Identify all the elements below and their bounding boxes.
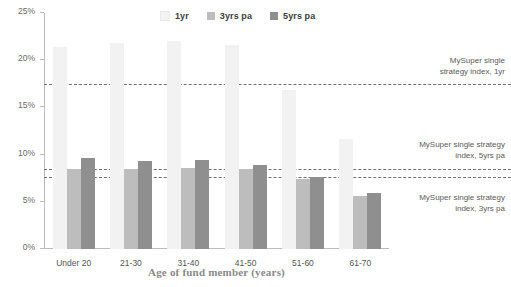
bar-chart: 1yr3yrs pa5yrs pa 0%5%10%15%20%25% Under… — [0, 0, 511, 287]
x-axis-title: Age of fund member (years) — [44, 266, 389, 278]
y-tick-mark — [40, 248, 44, 249]
y-tick-2: 10% — [0, 154, 44, 155]
y-tick-label: 20% — [18, 53, 35, 63]
bars — [217, 13, 274, 249]
bar-5yrs-pa-61-70[interactable] — [367, 193, 381, 249]
y-tick-label: 25% — [18, 6, 35, 16]
y-tick-3: 15% — [0, 106, 44, 107]
bar-group-3: 41-50 — [217, 13, 274, 249]
bar-3yrs-pa-31-40[interactable] — [181, 168, 195, 249]
bar-5yrs-pa-31-40[interactable] — [195, 160, 209, 249]
bar-3yrs-pa-41-50[interactable] — [239, 169, 253, 249]
bars — [332, 13, 389, 249]
bars — [160, 13, 217, 249]
y-tick-label: 10% — [18, 148, 35, 158]
y-tick-0: 0% — [0, 248, 44, 249]
bar-1yr-31-40[interactable] — [167, 41, 181, 249]
y-tick-label: 5% — [23, 195, 35, 205]
bar-5yrs-pa-51-60[interactable] — [310, 177, 324, 249]
y-tick-mark — [40, 154, 44, 155]
bar-5yrs-pa-41-50[interactable] — [253, 165, 267, 249]
reference-line-label-2: MySuper single strategy index, 3yrs pa — [385, 192, 505, 214]
bar-3yrs-pa-Under-20[interactable] — [67, 169, 81, 249]
y-tick-4: 20% — [0, 59, 44, 60]
bar-3yrs-pa-51-60[interactable] — [296, 179, 310, 249]
bar-group-1: 21-30 — [102, 13, 159, 249]
y-tick-mark — [40, 12, 44, 13]
y-tick-label: 0% — [23, 242, 35, 252]
bar-group-4: 51-60 — [274, 13, 331, 249]
bars — [102, 13, 159, 249]
bar-1yr-51-60[interactable] — [282, 90, 296, 249]
bar-group-5: 61-70 — [332, 13, 389, 249]
y-tick-5: 25% — [0, 12, 44, 13]
y-tick-mark — [40, 201, 44, 202]
y-tick-mark — [40, 106, 44, 107]
bar-1yr-61-70[interactable] — [339, 139, 353, 249]
bar-group-2: 31-40 — [160, 13, 217, 249]
y-tick-label: 15% — [18, 100, 35, 110]
reference-line-label-1: MySuper single strategy index, 5yrs pa — [385, 139, 505, 161]
bars — [274, 13, 331, 249]
y-tick-mark — [40, 59, 44, 60]
bar-5yrs-pa-21-30[interactable] — [138, 161, 152, 249]
y-tick-1: 5% — [0, 201, 44, 202]
bar-1yr-Under-20[interactable] — [53, 47, 67, 249]
bar-groups: Under 2021-3031-4041-5051-6061-70 — [45, 13, 389, 249]
bars — [45, 13, 102, 249]
plot-area: 0%5%10%15%20%25% Under 2021-3031-4041-50… — [44, 13, 389, 249]
bar-3yrs-pa-61-70[interactable] — [353, 196, 367, 249]
bar-1yr-21-30[interactable] — [110, 43, 124, 249]
bar-3yrs-pa-21-30[interactable] — [124, 169, 138, 249]
bar-5yrs-pa-Under-20[interactable] — [81, 158, 95, 249]
bar-group-0: Under 20 — [45, 13, 102, 249]
reference-line-label-0: MySuper single strategy index, 1yr — [385, 55, 505, 77]
bar-1yr-41-50[interactable] — [225, 45, 239, 249]
